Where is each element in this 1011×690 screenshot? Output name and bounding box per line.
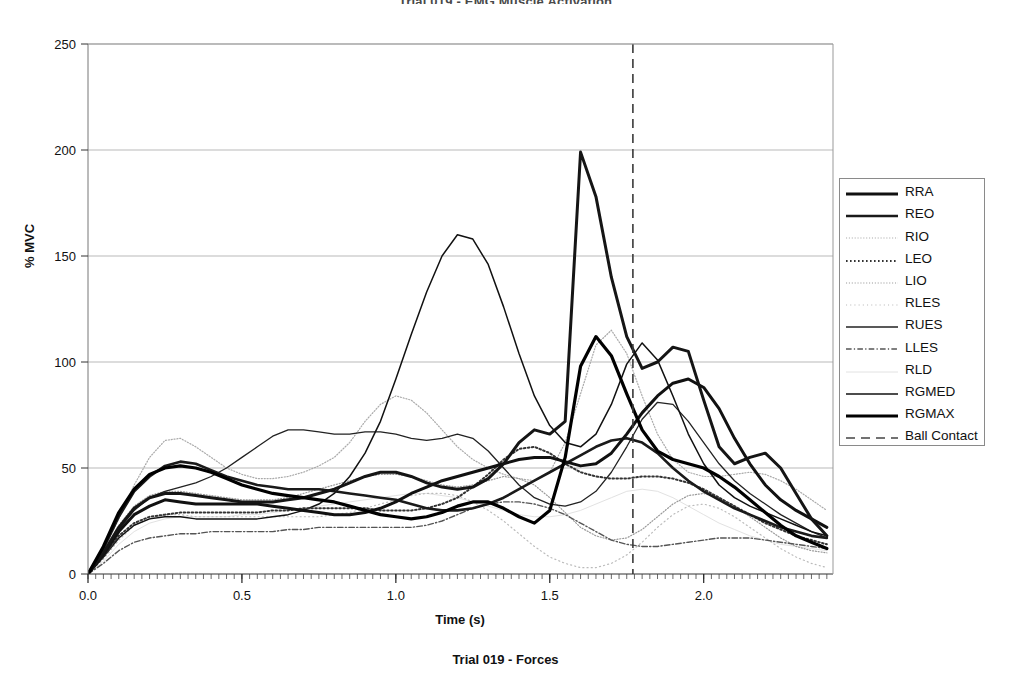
svg-text:0: 0 (69, 567, 76, 582)
legend-swatch-icon (846, 208, 898, 220)
svg-text:50: 50 (62, 461, 76, 476)
legend-item-label: LIO (905, 274, 927, 288)
svg-text:1.0: 1.0 (387, 588, 405, 603)
legend-swatch-icon (846, 386, 898, 398)
legend-item-label: RGMED (905, 385, 955, 399)
svg-text:100: 100 (54, 355, 76, 370)
x-axis-tick-labels: 0.00.51.01.52.0 (79, 574, 713, 603)
legend-swatch-icon (846, 297, 898, 309)
legend-item-reo[interactable]: REO (839, 202, 985, 226)
legend-item-lles[interactable]: LLES (839, 335, 985, 359)
legend-item-label: RRA (905, 185, 934, 199)
legend-item-lio[interactable]: LIO (839, 269, 985, 293)
series-line (88, 489, 827, 574)
figure-caption: Trial 019 - Forces (0, 652, 1011, 667)
legend-item-label: LEO (905, 252, 932, 266)
legend-swatch-icon (846, 430, 898, 442)
svg-text:1.5: 1.5 (541, 588, 559, 603)
legend-item-label: LLES (905, 341, 938, 355)
x-axis-ticks (88, 574, 827, 579)
svg-text:0.0: 0.0 (79, 588, 97, 603)
legend-swatch-icon (846, 408, 898, 420)
svg-text:2.0: 2.0 (695, 588, 713, 603)
legend-swatch-icon (846, 341, 898, 353)
legend-swatch-icon (846, 319, 898, 331)
legend-swatch-icon (846, 253, 898, 265)
svg-text:150: 150 (54, 249, 76, 264)
legend-item-rgmed[interactable]: RGMED (839, 380, 985, 404)
legend-item-label: RUES (905, 318, 943, 332)
y-axis-tick-labels: 050100150200250 (54, 37, 88, 582)
legend: RRAREORIOLEOLIORLESRUESLLESRLDRGMEDRGMAX… (839, 178, 985, 446)
legend-item-rgmax[interactable]: RGMAX (839, 402, 985, 426)
legend-swatch-icon (846, 364, 898, 376)
legend-swatch-icon (846, 186, 898, 198)
legend-item-rld[interactable]: RLD (839, 358, 985, 382)
legend-item-label: RGMAX (905, 407, 955, 421)
legend-item-rio[interactable]: RIO (839, 224, 985, 248)
chart-area: 050100150200250 0.00.51.01.52.0 % MVC Ti… (0, 0, 1011, 690)
series-line (88, 330, 827, 574)
svg-text:250: 250 (54, 37, 76, 52)
legend-item-label: RIO (905, 230, 929, 244)
y-axis-label: % MVC (22, 224, 37, 268)
series-group (88, 152, 827, 574)
legend-item-label: Ball Contact (905, 429, 978, 443)
legend-swatch-icon (846, 275, 898, 287)
svg-text:200: 200 (54, 143, 76, 158)
x-axis-label: Time (s) (0, 612, 920, 627)
svg-text:0.5: 0.5 (233, 588, 251, 603)
series-line (88, 337, 827, 574)
legend-item-ball-contact[interactable]: Ball Contact (839, 424, 985, 448)
legend-item-leo[interactable]: LEO (839, 247, 985, 271)
legend-item-rles[interactable]: RLES (839, 291, 985, 315)
gridlines (88, 44, 833, 468)
legend-item-rra[interactable]: RRA (839, 180, 985, 204)
legend-item-rues[interactable]: RUES (839, 313, 985, 337)
legend-item-label: RLD (905, 363, 932, 377)
legend-item-label: REO (905, 207, 934, 221)
legend-swatch-icon (846, 230, 898, 242)
legend-item-label: RLES (905, 296, 940, 310)
